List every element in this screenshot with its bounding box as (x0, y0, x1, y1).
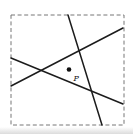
figure-canvas: P (0, 0, 133, 134)
point-p-dot (67, 67, 72, 72)
line-steep (68, 15, 102, 125)
point-p-label: P (73, 74, 80, 83)
geometry-diagram: P (0, 0, 133, 134)
line-descending (11, 58, 123, 104)
line-rising (11, 28, 123, 86)
